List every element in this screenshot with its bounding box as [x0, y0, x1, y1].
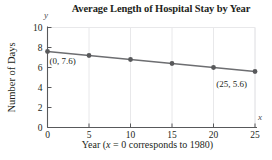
x-tick-label: 10: [126, 130, 136, 140]
y-tick-label: 8: [38, 43, 43, 53]
data-point-marker: [128, 57, 133, 62]
point-annotation-label: (25, 5.6): [216, 79, 247, 89]
data-point-marker: [45, 49, 50, 54]
data-point-marker: [170, 61, 175, 66]
x-tick-label: 20: [209, 130, 219, 140]
y-tick-label: 6: [38, 63, 43, 73]
y-tick-label: 4: [38, 83, 43, 93]
axis-lines: [48, 27, 258, 128]
data-line: [48, 52, 256, 72]
x-tick-label: 5: [87, 130, 92, 140]
axis-ticks: [48, 28, 256, 128]
x-tick-label: 15: [167, 130, 177, 140]
y-tick-label: 2: [38, 103, 43, 113]
data-point-marker: [211, 65, 216, 70]
y-tick-label: 10: [33, 23, 43, 33]
data-point-marker: [253, 69, 258, 74]
gridlines: [48, 28, 256, 128]
point-annotation-label: (0, 7.6): [50, 56, 76, 66]
series-line: [48, 52, 256, 72]
data-point-marker: [87, 53, 92, 58]
x-tick-label: 25: [250, 130, 260, 140]
x-tick-label: 0: [45, 130, 50, 140]
chart-figure: Average Length of Hospital Stay by Year …: [0, 0, 272, 160]
y-tick-label: 0: [38, 123, 43, 133]
plot-area: 02468100510152025 (0, 7.6)(25, 5.6): [0, 0, 272, 160]
